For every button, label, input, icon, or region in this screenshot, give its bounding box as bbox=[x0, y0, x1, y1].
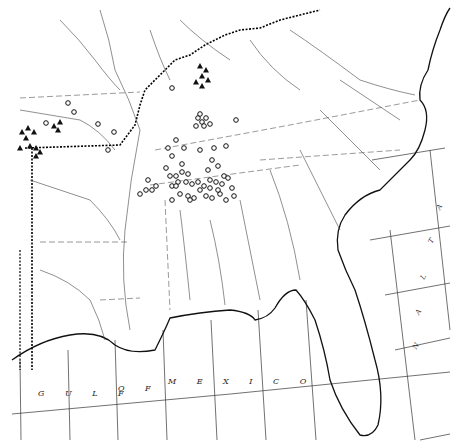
locality-circle bbox=[144, 188, 149, 193]
locality-circle bbox=[224, 198, 229, 203]
locality-circle bbox=[96, 122, 101, 127]
locality-circle bbox=[198, 148, 203, 153]
locality-circle bbox=[168, 174, 173, 179]
locality-triangle bbox=[197, 63, 203, 69]
locality-circle bbox=[226, 176, 231, 181]
locality-circle bbox=[196, 180, 201, 185]
locality-triangle bbox=[31, 129, 37, 135]
locality-circle bbox=[202, 124, 207, 129]
locality-circle bbox=[184, 180, 189, 185]
locality-circle bbox=[164, 166, 169, 171]
locality-circle bbox=[72, 110, 77, 115]
locality-circle bbox=[202, 184, 207, 189]
locality-triangle bbox=[51, 123, 57, 129]
locality-circle bbox=[208, 178, 213, 183]
locality-triangle bbox=[193, 79, 199, 85]
locality-circle bbox=[210, 158, 215, 163]
locality-circle bbox=[234, 118, 239, 123]
locality-triangle bbox=[27, 143, 33, 149]
locality-triangle bbox=[25, 125, 31, 131]
locality-triangle bbox=[199, 83, 205, 89]
locality-circle bbox=[220, 182, 225, 187]
triangle-markers bbox=[17, 63, 211, 159]
locality-circle bbox=[206, 168, 211, 173]
locality-circle bbox=[188, 198, 193, 203]
locality-circle bbox=[166, 146, 171, 151]
locality-circle bbox=[204, 116, 209, 121]
state-boundaries bbox=[20, 10, 320, 370]
locality-circle bbox=[106, 148, 111, 153]
locality-circle bbox=[198, 188, 203, 193]
coastline bbox=[12, 8, 450, 436]
map-canvas: G U L F O F M E X I C O A T L A N bbox=[0, 0, 457, 448]
locality-circle bbox=[112, 130, 117, 135]
locality-circle bbox=[190, 182, 195, 187]
minor-boundaries bbox=[20, 92, 420, 310]
locality-circle bbox=[170, 86, 175, 91]
locality-circle bbox=[230, 186, 235, 191]
locality-circle bbox=[204, 194, 209, 199]
locality-triangle bbox=[199, 73, 205, 79]
locality-circle bbox=[194, 124, 199, 129]
locality-circle bbox=[150, 188, 155, 193]
locality-triangle bbox=[23, 135, 29, 141]
locality-circle bbox=[66, 101, 71, 106]
of-label: O F bbox=[118, 384, 160, 393]
locality-circle bbox=[182, 146, 187, 151]
locality-circle bbox=[178, 192, 183, 197]
locality-circle bbox=[208, 186, 213, 191]
circle-markers bbox=[44, 86, 239, 203]
locality-triangle bbox=[17, 145, 23, 151]
locality-circle bbox=[210, 196, 215, 201]
locality-circle bbox=[180, 170, 185, 175]
locality-circle bbox=[170, 154, 175, 159]
mexico-label: M E X I C O bbox=[168, 377, 315, 386]
locality-circle bbox=[154, 184, 159, 189]
locality-circle bbox=[198, 112, 203, 117]
locality-triangle bbox=[203, 67, 209, 73]
locality-circle bbox=[146, 178, 151, 183]
locality-circle bbox=[214, 180, 219, 185]
locality-circle bbox=[208, 122, 213, 127]
locality-circle bbox=[138, 192, 143, 197]
locality-circle bbox=[186, 172, 191, 177]
locality-circle bbox=[216, 164, 221, 169]
locality-circle bbox=[174, 184, 179, 189]
locality-circle bbox=[224, 144, 229, 149]
locality-triangle bbox=[205, 77, 211, 83]
locality-circle bbox=[170, 198, 175, 203]
locality-circle bbox=[44, 121, 49, 126]
locality-circle bbox=[174, 138, 179, 143]
locality-circle bbox=[212, 146, 217, 151]
locality-circle bbox=[180, 162, 185, 167]
locality-triangle bbox=[19, 129, 25, 135]
locality-circle bbox=[216, 188, 221, 193]
locality-triangle bbox=[57, 119, 63, 125]
locality-circle bbox=[174, 174, 179, 179]
locality-circle bbox=[232, 194, 237, 199]
